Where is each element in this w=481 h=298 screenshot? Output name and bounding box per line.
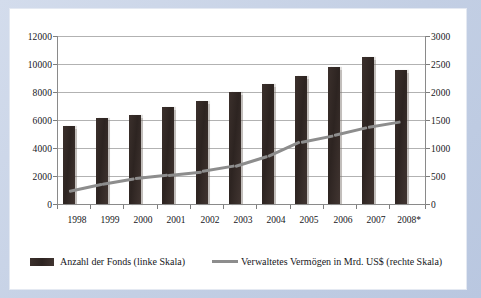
y-axis-right-tick-label: 2500 [431, 60, 473, 70]
y-axis-right-tick [426, 120, 430, 121]
bar-2004 [262, 84, 274, 205]
x-axis-line [57, 204, 426, 205]
y-axis-left-tick-label: 0 [10, 200, 52, 210]
legend-label-line: Verwaltetes Vermögen in Mrd. US$ (rechte… [241, 256, 442, 267]
y-axis-left-tick [53, 120, 57, 121]
y-axis-left-tick-label: 4000 [10, 144, 52, 154]
y-axis-right-tick [426, 64, 430, 65]
bar-2001 [162, 107, 174, 205]
chart-legend: Anzahl der Fonds (linke Skala) Verwaltet… [10, 254, 466, 280]
legend-item-line: Verwaltetes Vermögen in Mrd. US$ (rechte… [212, 256, 442, 267]
y-axis-left-tick [53, 92, 57, 93]
line-swatch-icon [212, 260, 238, 263]
y-axis-right-tick [426, 176, 430, 177]
bar-2003 [229, 92, 241, 205]
chart-page: 12000 10000 8000 6000 4000 2000 0 3000 2… [0, 0, 481, 298]
bar-2000 [129, 115, 141, 205]
x-axis-tick [123, 205, 124, 209]
y-axis-left-tick-label: 2000 [10, 172, 52, 182]
bar-1999 [96, 118, 108, 205]
y-axis-right-tick-label: 0 [431, 200, 473, 210]
y-axis-right-tick-label: 3000 [431, 32, 473, 42]
y-axis-right-tick [426, 92, 430, 93]
x-axis-tick [290, 205, 291, 209]
bar-2008 [395, 70, 407, 205]
bar-swatch-icon [30, 258, 54, 266]
y-axis-right-tick [426, 36, 430, 37]
x-axis-tick [57, 205, 58, 209]
y-axis-right-tick [426, 204, 430, 205]
x-axis-tick [356, 205, 357, 209]
x-axis-tick [256, 205, 257, 209]
y-axis-left-tick-label: 8000 [10, 88, 52, 98]
x-axis-tick [389, 205, 390, 209]
chart-plot-area: 12000 10000 8000 6000 4000 2000 0 3000 2… [10, 9, 466, 289]
x-axis-tick [157, 205, 158, 209]
x-axis-tick [223, 205, 224, 209]
x-axis-tick [425, 205, 426, 209]
y-axis-left-tick [53, 148, 57, 149]
y-axis-left-tick-label: 10000 [10, 60, 52, 70]
chart-card: 12000 10000 8000 6000 4000 2000 0 3000 2… [10, 9, 466, 289]
y-axis-left-tick [53, 176, 57, 177]
legend-item-bars: Anzahl der Fonds (linke Skala) [30, 256, 185, 267]
y-axis-right-tick-label: 1500 [431, 116, 473, 126]
bar-1998 [63, 126, 75, 205]
legend-label-bars: Anzahl der Fonds (linke Skala) [60, 256, 185, 267]
x-axis-tick [190, 205, 191, 209]
y-axis-right-tick-label: 1000 [431, 144, 473, 154]
y-axis-right-tick-label: 2000 [431, 88, 473, 98]
y-axis-left-tick-label: 6000 [10, 116, 52, 126]
y-axis-left-line [57, 36, 58, 205]
bar-2007 [362, 57, 374, 205]
bar-2002 [196, 101, 208, 205]
gridline [57, 36, 425, 37]
y-axis-left-tick [53, 36, 57, 37]
x-axis-tick [90, 205, 91, 209]
y-axis-left-tick [53, 64, 57, 65]
x-axis-label-2008: 2008* [379, 215, 439, 226]
y-axis-right-tick [426, 148, 430, 149]
y-axis-right-tick-label: 500 [431, 172, 473, 182]
x-axis-tick [323, 205, 324, 209]
y-axis-left-tick-label: 12000 [10, 32, 52, 42]
